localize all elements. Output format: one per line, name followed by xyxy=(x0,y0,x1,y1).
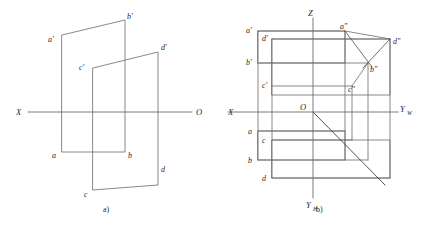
panel-a-label-d: d xyxy=(161,165,166,174)
panel-b-label-d-double-prime: d″ xyxy=(393,37,401,46)
panel-b-yw-subscript: W xyxy=(407,110,413,116)
edge-ad-side-top xyxy=(345,31,390,39)
panel-b-x-label: X xyxy=(227,107,234,117)
panel-b-label-a-prime: a′ xyxy=(246,26,252,35)
diagonal-a-to-b-side xyxy=(345,31,372,67)
panel-a-origin-label: O xyxy=(196,107,202,117)
panel-a-geometry xyxy=(28,20,192,190)
panel-b-yw-label: Y xyxy=(400,104,406,114)
panel-a-label-c: c xyxy=(84,190,88,199)
caption-panel-b: b) xyxy=(316,205,323,214)
panel-b-label-a: a xyxy=(248,127,252,136)
panel-a-label-c-prime: c′ xyxy=(79,63,85,72)
panel-b-label-a-double-prime: a″ xyxy=(340,22,348,31)
diagonal-d-to-b-side xyxy=(363,39,390,68)
panel-a-labels: X O a′ b′ c′ d′ a b c d xyxy=(15,12,202,199)
panel-a-label-d-prime: d′ xyxy=(161,43,167,52)
panel-b-label-b-prime: b′ xyxy=(246,58,252,67)
rect-ab-top-view xyxy=(258,131,345,160)
rect-ab-front-view xyxy=(258,31,345,63)
caption-panel-a: a) xyxy=(103,205,109,214)
panel-b-z-label: Z xyxy=(308,8,313,18)
panel-b-label-b: b xyxy=(248,156,252,165)
plane-abba-outline xyxy=(62,20,125,152)
panel-b-label-c-prime: c′ xyxy=(262,81,268,90)
panel-b-origin-label: O xyxy=(300,102,306,112)
panel-b-label-c: c xyxy=(262,136,266,145)
plane-cddc-outline xyxy=(93,52,158,190)
panel-a-x-label: X xyxy=(15,107,22,117)
panel-a-label-a-prime: a′ xyxy=(48,35,54,44)
panel-b-geometry xyxy=(228,18,398,198)
panel-a-label-a: a xyxy=(52,151,56,160)
panel-b-yh-label: Y xyxy=(306,200,312,210)
figure-canvas: X O a′ b′ c′ d′ a b c d X Z O Y W Y H a′… xyxy=(0,0,424,230)
forty-five-degree-bisector xyxy=(313,112,385,185)
technical-drawing-figure: X O a′ b′ c′ d′ a b c d X Z O Y W Y H a′… xyxy=(0,0,424,230)
panel-b-label-d: d xyxy=(262,174,267,183)
panel-b-label-d-prime: d′ xyxy=(262,34,268,43)
panel-a-label-b: b xyxy=(128,151,132,160)
panel-b-label-c-double-prime: c″ xyxy=(348,85,356,94)
panel-b-label-b-double-prime: b″ xyxy=(370,65,378,74)
panel-a-label-b-prime: b′ xyxy=(127,12,133,21)
edge-cb-side xyxy=(352,63,368,86)
